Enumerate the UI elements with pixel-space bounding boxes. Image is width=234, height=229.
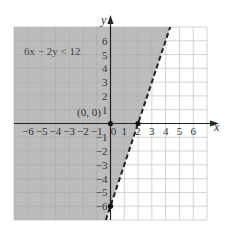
y-tick-label: −4: [96, 173, 108, 185]
x-tick-label: 3: [149, 125, 155, 137]
x-axis-label: x: [213, 120, 220, 134]
x-tick-label: 0: [111, 125, 117, 137]
x-tick-label: −2: [77, 125, 89, 137]
y-tick-label: 1: [102, 104, 108, 116]
y-tick-label: −1: [96, 131, 108, 143]
inequality-label: 6x − 2y < 12: [24, 45, 80, 57]
y-tick-label: 5: [102, 49, 108, 61]
x-tick-label: 2: [135, 125, 141, 137]
y-tick-label: −3: [96, 159, 108, 171]
y-tick-label: 6: [102, 35, 108, 47]
point-marker: [135, 121, 140, 126]
x-tick-label: −6: [22, 125, 34, 137]
point-marker: [108, 204, 113, 209]
y-tick-label: 4: [102, 62, 108, 74]
y-tick-label: 2: [102, 90, 108, 102]
test-point-label: (0, 0): [77, 106, 101, 119]
inequality-graph: −6−5−4−3−2−10123456−6−5−4−3−2−1123456 6x…: [0, 0, 234, 229]
x-tick-label: 5: [177, 125, 183, 137]
y-tick-label: −5: [96, 186, 108, 198]
y-tick-label: −6: [96, 200, 108, 212]
point-marker: [108, 121, 113, 126]
y-tick-label: −2: [96, 145, 108, 157]
x-tick-label: 1: [122, 125, 128, 137]
x-tick-label: −4: [49, 125, 61, 137]
x-tick-label: −5: [36, 125, 48, 137]
x-tick-label: 6: [190, 125, 196, 137]
y-tick-label: 3: [102, 76, 108, 88]
x-tick-label: −3: [63, 125, 75, 137]
y-axis-label: y: [100, 13, 107, 27]
x-tick-label: 4: [163, 125, 169, 137]
